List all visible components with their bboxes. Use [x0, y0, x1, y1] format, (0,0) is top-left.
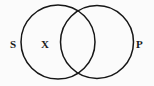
venn-diagram-figure: S X P [0, 0, 154, 86]
circle-predicate-p [61, 6, 134, 79]
label-subject-s: S [10, 39, 16, 50]
label-x-mark: X [41, 39, 49, 50]
label-predicate-p: P [136, 39, 143, 50]
venn-diagram-canvas [0, 0, 154, 86]
circle-subject-s [21, 5, 95, 79]
